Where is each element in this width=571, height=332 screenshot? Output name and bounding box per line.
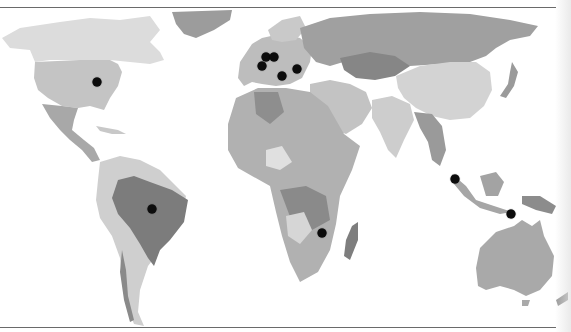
map-marker-dot (258, 62, 267, 71)
landmass-new-guinea (522, 196, 556, 214)
map-marker-dot (293, 65, 302, 74)
frame-top-rule (0, 7, 556, 8)
world-map-landmasses (0, 0, 571, 332)
landmass-borneo (480, 172, 504, 196)
landmass-japan (500, 62, 518, 98)
landmass-mexico (42, 104, 100, 162)
landmass-australia (476, 220, 554, 296)
map-marker-dot (278, 72, 287, 81)
landmass-madagascar (344, 222, 358, 260)
landmass-russia (300, 12, 538, 66)
landmass-tasmania (522, 300, 530, 306)
map-marker-dot (451, 175, 460, 184)
map-marker-dot (148, 205, 157, 214)
landmass-canada (2, 16, 164, 64)
world-map (0, 0, 571, 332)
page-edge-shadow (555, 0, 571, 332)
map-marker-dot (93, 78, 102, 87)
landmass-caribbean (96, 126, 126, 134)
landmass-india (372, 96, 414, 158)
landmass-usa (34, 60, 122, 110)
frame-bottom-rule (0, 327, 556, 328)
map-marker-dot (270, 53, 279, 62)
landmass-greenland (172, 10, 232, 38)
map-marker-dot (507, 210, 516, 219)
landmass-southeast-asia (414, 112, 446, 166)
map-marker-dot (318, 229, 327, 238)
